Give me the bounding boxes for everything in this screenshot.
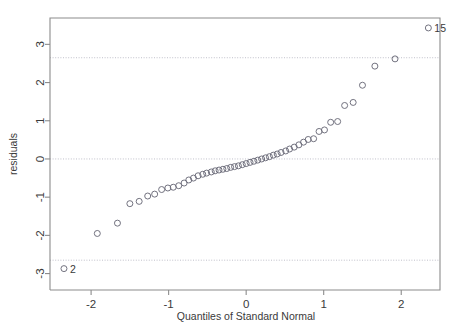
y-tick-label: 2	[34, 79, 46, 85]
y-tick-label: 1	[34, 118, 46, 124]
x-tick-label: -2	[86, 298, 96, 310]
x-tick-label: -1	[164, 298, 174, 310]
x-tick-label: 0	[243, 298, 249, 310]
y-tick-label: -3	[34, 268, 46, 278]
plot-background	[0, 0, 461, 334]
x-tick-label: 1	[320, 298, 326, 310]
qq-plot-figure: -2-1012 -3-2-10123 152 Quantiles of Stan…	[0, 0, 461, 334]
y-tick-label: -2	[34, 230, 46, 240]
y-tick-label: 0	[34, 156, 46, 162]
outlier-label-15: 15	[434, 22, 446, 34]
qq-plot-canvas: -2-1012 -3-2-10123 152 Quantiles of Stan…	[0, 0, 461, 334]
outlier-label-2: 2	[70, 263, 76, 275]
y-tick-label: -1	[34, 192, 46, 202]
y-axis-title: residuals	[7, 133, 19, 175]
x-axis-title: Quantiles of Standard Normal	[177, 310, 315, 322]
y-tick-label: 3	[34, 41, 46, 47]
x-tick-label: 2	[398, 298, 404, 310]
